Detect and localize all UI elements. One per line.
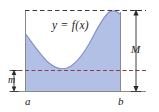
- min-value-label: m: [8, 75, 15, 85]
- calculus-extreme-value-figure: y = f(x) a b M m: [0, 0, 159, 112]
- max-value-label: M: [131, 44, 140, 55]
- function-label: y = f(x): [52, 20, 89, 32]
- figure-canvas: [0, 0, 159, 112]
- x-axis-label-a: a: [25, 96, 31, 107]
- x-axis-label-b: b: [118, 96, 124, 107]
